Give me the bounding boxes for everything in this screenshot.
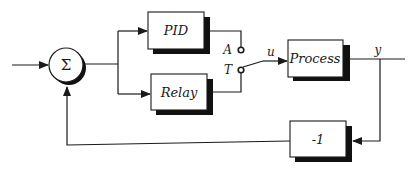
feedback-gain-label: -1	[312, 132, 325, 147]
terminal-a	[238, 47, 244, 53]
terminal-a-label: A	[222, 43, 232, 57]
pid-block: PID	[148, 12, 210, 54]
switch-lever	[243, 61, 263, 67]
relay-block: Relay	[151, 74, 213, 115]
mode-switch: A T	[222, 43, 263, 77]
process-label: Process	[288, 51, 340, 66]
sigma-symbol: Σ	[61, 56, 72, 74]
process-block: Process	[288, 40, 350, 81]
pid-label: PID	[163, 23, 189, 38]
feedback-branch-arrow	[353, 59, 380, 141]
control-signal-label: u	[267, 45, 275, 59]
terminal-t	[238, 67, 244, 73]
terminal-t-label: T	[224, 63, 233, 77]
relay-label: Relay	[160, 85, 198, 100]
output-signal-label: y	[374, 43, 382, 57]
feedback-gain-block: -1	[290, 121, 352, 162]
block-diagram: Σ PID Relay A T u Process y	[0, 0, 416, 173]
summing-junction: Σ	[49, 48, 86, 85]
